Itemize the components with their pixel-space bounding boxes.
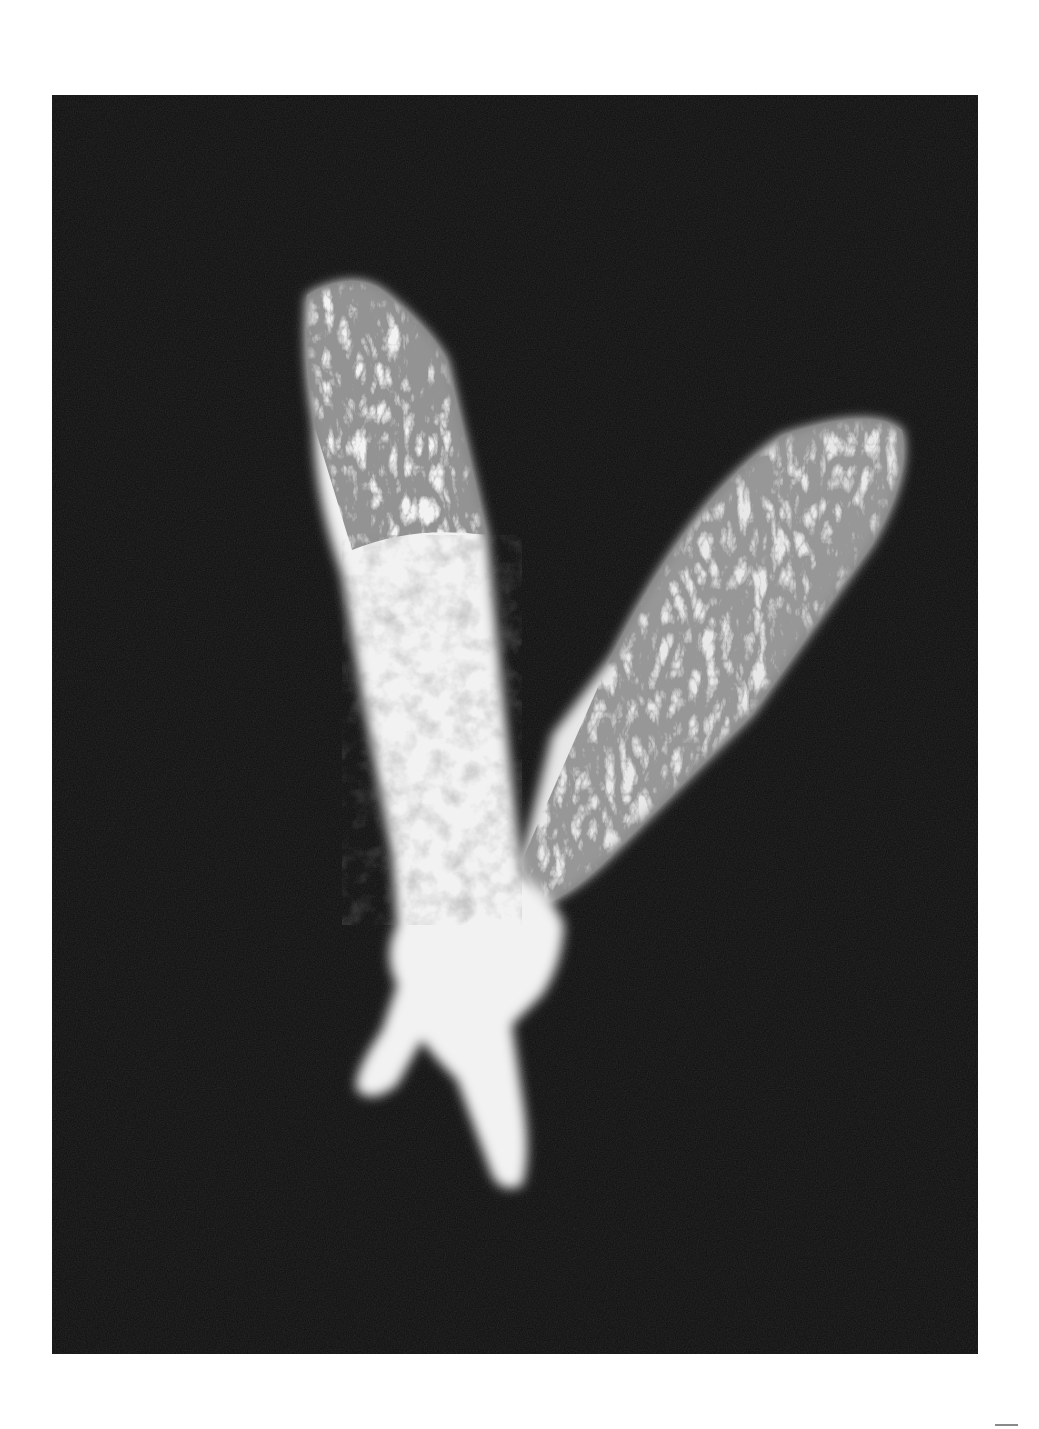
photogram-artwork (52, 95, 978, 1354)
page-mark (995, 1424, 1018, 1426)
photograph: Black-and-white photogram of two forearm… (52, 95, 978, 1354)
